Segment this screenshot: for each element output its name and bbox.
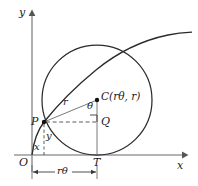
origin-label: O [19,157,28,168]
y-axis-label: y [19,7,25,18]
point-C-dot [95,98,99,102]
dimension-arrowhead-right [91,170,96,175]
point-Q-label: Q [101,116,110,127]
y-axis-arrowhead [29,10,36,17]
cycloid-diagram: y x O P Q T C(rθ, r) r θ y x rθ [0,0,198,186]
dimension-arrowhead-left [33,170,38,175]
point-T-label: T [93,157,100,168]
radius-label: r [63,97,68,107]
point-P-label: P [31,116,38,127]
dimension-label-rtheta: rθ [57,166,68,176]
x-axis-arrowhead [182,152,189,159]
right-angle-marker [90,115,97,122]
height-y-label: y [46,131,52,141]
angle-theta-label: θ [87,101,93,111]
point-P-dot [42,120,46,124]
x-axis-label: x [177,160,183,171]
offset-x-label: x [34,142,40,152]
point-C-label: C(rθ, r) [101,91,140,102]
